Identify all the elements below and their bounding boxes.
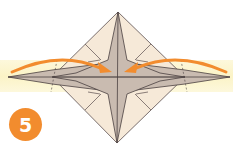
star-shape [52, 12, 185, 143]
step-number-badge: 5 [9, 108, 42, 141]
